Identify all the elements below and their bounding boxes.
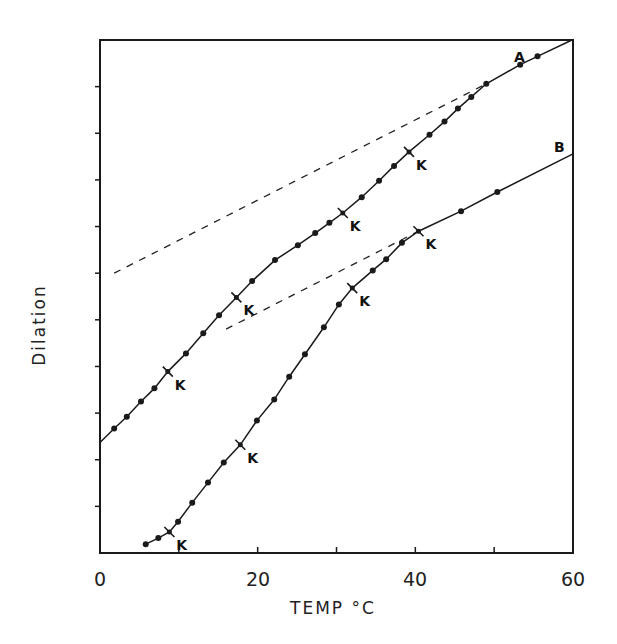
- data-markers: [111, 53, 540, 547]
- k-label: K: [350, 218, 362, 234]
- k-point: [350, 286, 355, 291]
- data-point: [295, 242, 301, 248]
- data-point: [155, 535, 161, 541]
- data-point: [468, 94, 474, 100]
- data-point: [124, 414, 130, 420]
- data-point: [189, 500, 195, 506]
- k-point: [165, 369, 170, 374]
- data-point: [271, 397, 277, 403]
- data-point: [216, 312, 222, 318]
- k-label: K: [425, 236, 437, 252]
- x-tick-label-60: 60: [561, 568, 585, 590]
- x-tick-label-40: 40: [403, 568, 427, 590]
- k-point: [340, 211, 345, 216]
- data-point: [200, 330, 206, 336]
- k-point: [416, 229, 421, 234]
- data-point: [312, 230, 318, 236]
- data-point: [427, 132, 433, 138]
- k-point: [234, 295, 239, 300]
- y-axis-title: Dilation: [29, 284, 49, 366]
- data-point: [183, 350, 189, 356]
- k-transition-marks: KKKKKKKK: [163, 147, 438, 553]
- extrapolation-lines: [114, 84, 486, 329]
- k-label: K: [176, 537, 188, 553]
- data-point: [383, 256, 389, 262]
- plot-frame: [100, 40, 573, 553]
- dilation-chart: KKKKKKKK 0 20 40 60 TEMP °C Dilation A B: [0, 0, 617, 644]
- x-axis-title: TEMP °C: [289, 598, 376, 618]
- k-point: [167, 530, 172, 535]
- k-label: K: [359, 293, 371, 309]
- data-point: [391, 163, 397, 169]
- data-point: [483, 81, 489, 87]
- data-point: [254, 418, 260, 424]
- data-point: [326, 220, 332, 226]
- data-point: [458, 208, 464, 214]
- data-point: [535, 53, 541, 59]
- data-point: [111, 425, 117, 431]
- data-point: [376, 178, 382, 184]
- data-point: [221, 460, 227, 466]
- curve-a: [100, 40, 573, 443]
- x-tick-label-20: 20: [246, 568, 270, 590]
- data-point: [442, 119, 448, 125]
- data-point: [359, 194, 365, 200]
- k-point: [407, 149, 412, 154]
- k-point: [238, 442, 243, 447]
- curve-label-a: A: [514, 49, 525, 65]
- data-point: [249, 278, 255, 284]
- data-point: [370, 267, 376, 273]
- data-point: [399, 240, 405, 246]
- data-point: [302, 351, 308, 357]
- curves: [100, 40, 573, 545]
- k-label: K: [243, 302, 255, 318]
- data-point: [151, 385, 157, 391]
- k-label: K: [247, 450, 259, 466]
- curve-b: [146, 154, 573, 544]
- data-point: [272, 257, 278, 263]
- data-point: [321, 324, 327, 330]
- data-point: [138, 398, 144, 404]
- data-point: [494, 189, 500, 195]
- data-point: [336, 301, 342, 307]
- k-label: K: [416, 157, 428, 173]
- curve-label-b: B: [554, 139, 565, 155]
- data-point: [175, 519, 181, 525]
- k-label: K: [175, 377, 187, 393]
- data-point: [205, 480, 211, 486]
- x-tick-label-0: 0: [94, 568, 106, 590]
- data-point: [143, 541, 149, 547]
- data-point: [286, 374, 292, 380]
- data-point: [455, 106, 461, 112]
